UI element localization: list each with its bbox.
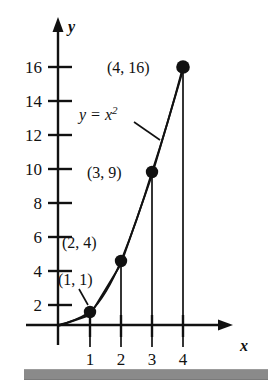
curve-equation-base: y = x bbox=[77, 106, 112, 124]
point-label-2-4: (2, 4) bbox=[62, 234, 97, 252]
y-tick-label-14: 14 bbox=[25, 92, 43, 111]
y-axis-label: y bbox=[66, 18, 76, 36]
y-tick-labels: 16 14 12 10 8 6 4 2 bbox=[25, 58, 43, 315]
leader-line-curve-label bbox=[134, 122, 160, 140]
data-point-3-9 bbox=[146, 166, 158, 178]
data-point-1-1 bbox=[84, 306, 96, 318]
quadratic-function-plot: 16 14 12 10 8 6 4 2 1 2 3 4 y x (4, 16) … bbox=[0, 0, 279, 390]
y-tick-label-4: 4 bbox=[34, 262, 43, 281]
y-tick-label-12: 12 bbox=[25, 126, 42, 145]
y-tick-label-6: 6 bbox=[34, 228, 43, 247]
bottom-rule-bar bbox=[24, 369, 268, 380]
x-tick-label-1: 1 bbox=[86, 350, 95, 369]
data-point-4-16 bbox=[176, 60, 190, 74]
figure-root: 16 14 12 10 8 6 4 2 1 2 3 4 y x (4, 16) … bbox=[0, 0, 279, 390]
x-tick-labels: 1 2 3 4 bbox=[86, 350, 188, 369]
x-axis-arrowhead bbox=[218, 320, 233, 331]
leader-line-point-1-1 bbox=[79, 289, 88, 305]
curve-equation-exponent: 2 bbox=[112, 104, 118, 116]
point-label-4-16: (4, 16) bbox=[107, 59, 150, 77]
y-tick-marks bbox=[48, 67, 72, 305]
point-label-3-9: (3, 9) bbox=[87, 164, 122, 182]
y-tick-label-10: 10 bbox=[25, 160, 42, 179]
data-point-2-4 bbox=[115, 255, 127, 267]
curve-equation-label: y = x2 bbox=[77, 104, 118, 124]
y-axis-arrowhead bbox=[53, 17, 64, 32]
x-tick-label-2: 2 bbox=[117, 350, 126, 369]
point-label-1-1: (1, 1) bbox=[58, 271, 93, 289]
y-tick-label-8: 8 bbox=[34, 194, 43, 213]
y-tick-label-16: 16 bbox=[25, 58, 42, 77]
y-tick-label-2: 2 bbox=[34, 296, 43, 315]
x-tick-label-3: 3 bbox=[148, 350, 157, 369]
x-axis-label: x bbox=[239, 337, 248, 354]
x-tick-label-4: 4 bbox=[179, 350, 188, 369]
